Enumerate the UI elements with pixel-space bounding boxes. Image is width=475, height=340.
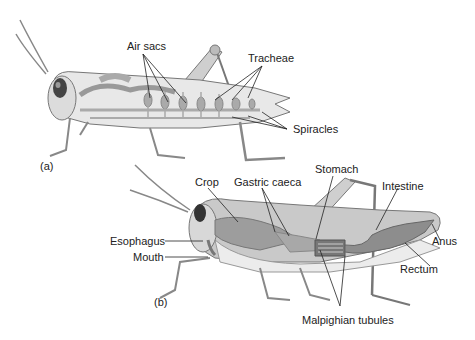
illustration xyxy=(0,0,475,340)
label-intestine: Intestine xyxy=(382,181,424,192)
label-malpighian-tubules: Malpighian tubules xyxy=(302,315,394,326)
grasshopper-anatomy-figure: Air sacs Tracheae Spiracles (a) Crop Gas… xyxy=(0,0,475,340)
label-mouth: Mouth xyxy=(133,252,164,263)
label-air-sacs: Air sacs xyxy=(127,41,166,52)
label-stomach: Stomach xyxy=(315,164,358,175)
label-anus: Anus xyxy=(432,236,457,247)
label-tracheae: Tracheae xyxy=(248,53,294,64)
panel-label-a: (a) xyxy=(40,160,53,172)
label-gastric-caeca: Gastric caeca xyxy=(234,177,301,188)
label-spiracles: Spiracles xyxy=(293,124,338,135)
label-rectum: Rectum xyxy=(400,264,438,275)
label-crop: Crop xyxy=(195,177,219,188)
panel-label-b: (b) xyxy=(154,296,167,308)
label-esophagus: Esophagus xyxy=(110,236,165,247)
